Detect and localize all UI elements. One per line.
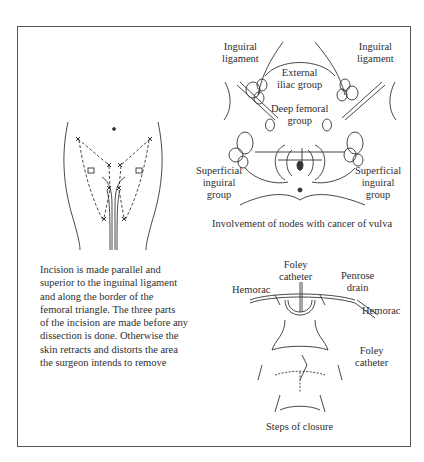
text-line: of the incision are made before any [40,316,220,329]
label-inguinal-ligament-right: Inguiral ligament [357,41,394,65]
label-line: Deep femoral [271,103,328,115]
label-line: inguiral [355,177,401,189]
label-line: Penrose [341,270,374,282]
label-line: ligament [222,53,259,65]
incision-description: Incision is made parallel and superior t… [40,263,220,369]
label-line: group [196,189,242,201]
text-line: femoral triangle. The three parts [40,303,220,316]
text-line: skin retracts and distorts the area [40,343,220,356]
label-line: Foley [279,259,312,271]
label-line: Foley [355,345,388,357]
text-line: Incision is made parallel and [40,263,220,276]
label-line: group [271,115,328,127]
label-line: Superficial [196,165,242,177]
label-superficial-inguinal-right: Superficial inguiral group [355,165,401,201]
text-line: and along the border of the [40,290,220,303]
label-hemorac-left: Hemorac [232,284,270,296]
incision-diagram [64,122,162,250]
text-line: the surgeon intends to remove [40,356,220,369]
label-foley-catheter-top: Foley catheter [279,259,312,283]
label-external-iliac-group: External iliac group [277,67,322,91]
figure-line-art [0,0,424,462]
label-line: inguiral [196,177,242,189]
label-line: iliac group [277,79,322,91]
label-line: catheter [355,357,388,369]
label-line: Superficial [355,165,401,177]
label-penrose-drain: Penrose drain [341,270,374,294]
label-foley-catheter-bottom: Foley catheter [355,345,388,369]
label-line: drain [341,282,374,294]
text-line: superior to the inguinal ligament [40,276,220,289]
label-hemorac-right: Hemorac [362,305,400,317]
label-line: Inguiral [222,41,259,53]
label-inguinal-ligament-left: Inguiral ligament [222,41,259,65]
label-line: group [355,189,401,201]
label-line: Inguiral [357,41,394,53]
caption-nodes: Involvement of nodes with cancer of vulv… [212,218,392,230]
label-line: ligament [357,53,394,65]
label-superficial-inguinal-left: Superficial inguiral group [196,165,242,201]
label-line: catheter [279,271,312,283]
label-deep-femoral-group: Deep femoral group [271,103,328,127]
caption-closure: Steps of closure [266,421,333,433]
text-line: dissection is done. Otherwise the [40,329,220,342]
label-line: External [277,67,322,79]
